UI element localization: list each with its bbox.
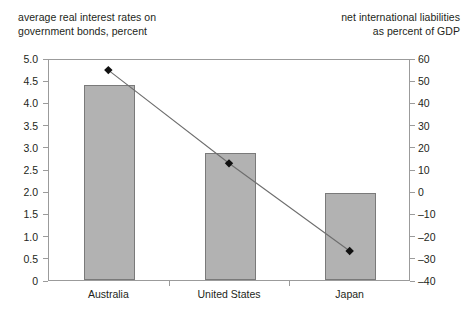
left-axis-caption-line-2: government bonds, percent xyxy=(18,25,248,39)
right-axis-caption-line-1: net international liabilities xyxy=(230,11,460,25)
chart-figure: average real interest rates on governmen… xyxy=(0,0,469,313)
right-axis-tick xyxy=(410,59,415,60)
left-axis-tick-label: 3.0 xyxy=(23,143,38,154)
x-axis-category-label: United States xyxy=(197,288,260,300)
x-axis-category-label: Japan xyxy=(335,288,364,300)
x-axis-tick xyxy=(289,281,290,286)
right-axis-tick xyxy=(410,192,415,193)
plot-area xyxy=(49,60,409,280)
right-axis-tick-label: 10 xyxy=(418,165,430,176)
right-axis-caption-line-2: as percent of GDP xyxy=(230,25,460,39)
right-axis-tick-label: –20 xyxy=(418,232,436,243)
left-axis-tick-label: 5.0 xyxy=(23,54,38,65)
right-axis-tick xyxy=(410,147,415,148)
right-axis-tick-label: 40 xyxy=(418,98,430,109)
right-axis-tick-label: 0 xyxy=(418,187,424,198)
right-axis-tick xyxy=(410,258,415,259)
right-axis-caption: net international liabilities as percent… xyxy=(230,11,460,38)
right-axis-tick xyxy=(410,103,415,104)
right-axis-tick-label: –10 xyxy=(418,209,436,220)
left-axis-tick-label: 4.0 xyxy=(23,98,38,109)
left-axis-caption-line-1: average real interest rates on xyxy=(18,11,248,25)
right-axis-tick xyxy=(410,214,415,215)
left-axis-tick-label: 1.0 xyxy=(23,232,38,243)
right-axis-tick-label: 50 xyxy=(418,76,430,87)
left-axis-tick-label: 4.5 xyxy=(23,76,38,87)
x-axis-category-label: Australia xyxy=(88,288,129,300)
left-axis-tick-label: 2.5 xyxy=(23,165,38,176)
right-axis-tick-label: –30 xyxy=(418,254,436,265)
right-axis-tick xyxy=(410,125,415,126)
bar xyxy=(84,85,135,280)
right-axis-tick xyxy=(410,281,415,282)
bar xyxy=(325,193,376,280)
x-axis-tick xyxy=(169,281,170,286)
right-axis-tick xyxy=(410,236,415,237)
plot-frame xyxy=(48,59,410,281)
left-axis-caption: average real interest rates on governmen… xyxy=(18,11,248,38)
left-axis-tick-label: 3.5 xyxy=(23,121,38,132)
right-axis-tick-label: 30 xyxy=(418,121,430,132)
left-axis-tick-label: 1.5 xyxy=(23,209,38,220)
right-axis-tick-label: 20 xyxy=(418,143,430,154)
left-axis-tick-label: 0 xyxy=(32,276,38,287)
left-axis-tick-label: 0.5 xyxy=(23,254,38,265)
bar xyxy=(205,153,256,280)
right-axis-tick xyxy=(410,170,415,171)
left-axis-tick-label: 2.0 xyxy=(23,187,38,198)
right-axis-tick-label: –40 xyxy=(418,276,436,287)
right-axis-tick xyxy=(410,81,415,82)
right-axis-tick-label: 60 xyxy=(418,54,430,65)
